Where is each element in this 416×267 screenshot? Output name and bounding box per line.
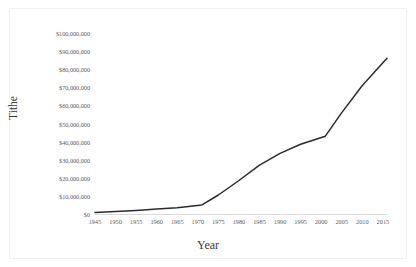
x-tick-label: 2015 — [377, 218, 390, 225]
x-tick-label: 1960 — [150, 218, 163, 225]
y-tick-label: $70,000,000 — [59, 84, 90, 91]
y-tick-label: $50,000,000 — [59, 120, 90, 127]
plot-area — [95, 33, 387, 214]
y-tick-label: $80,000,000 — [59, 66, 90, 73]
y-tick-label: $20,000,000 — [59, 174, 90, 181]
x-axis-line — [95, 214, 387, 215]
x-tick-label: 1970 — [192, 218, 205, 225]
x-tick-label: 1985 — [253, 218, 266, 225]
x-axis-tick-labels: 1945195019551960196519701975198019851990… — [95, 218, 387, 230]
y-tick-label: $0 — [84, 211, 90, 218]
y-tick-label: $40,000,000 — [59, 138, 90, 145]
x-tick-label: 1975 — [212, 218, 225, 225]
x-tick-label: 1965 — [171, 218, 184, 225]
y-tick-label: $10,000,000 — [59, 192, 90, 199]
x-tick-label: 2010 — [356, 218, 369, 225]
y-tick-label: $30,000,000 — [59, 156, 90, 163]
x-tick-label: 2000 — [315, 218, 328, 225]
y-tick-label: $60,000,000 — [59, 102, 90, 109]
x-tick-label: 1945 — [89, 218, 102, 225]
x-tick-label: 1980 — [233, 218, 246, 225]
x-axis-title: Year — [0, 238, 416, 253]
x-tick-label: 1990 — [274, 218, 287, 225]
chart-figure: Tithe $100,000,000$90,000,000$80,000,000… — [0, 0, 416, 267]
y-axis-tick-labels: $100,000,000$90,000,000$80,000,000$70,00… — [18, 33, 90, 214]
line-series-tithe — [95, 33, 387, 214]
x-tick-label: 2005 — [335, 218, 348, 225]
x-tick-label: 1995 — [294, 218, 307, 225]
y-tick-label: $100,000,000 — [56, 30, 90, 37]
y-tick-label: $90,000,000 — [59, 48, 90, 55]
x-tick-label: 1955 — [130, 218, 143, 225]
x-tick-label: 1950 — [109, 218, 122, 225]
